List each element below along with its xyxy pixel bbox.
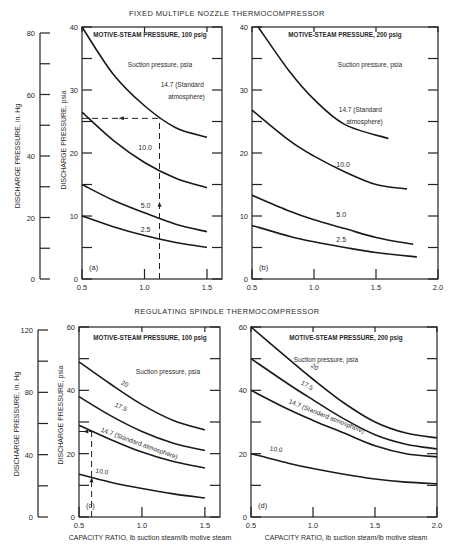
panel-label: (c) <box>86 501 95 510</box>
y-tick-label: 40 <box>70 23 78 32</box>
y-tick-label: 60 <box>67 323 75 332</box>
curve-suction-10.0 <box>251 454 437 484</box>
section-title-regulating-spindle: REGULATING SPINDLE THERMOCOMPRESSOR <box>135 307 320 316</box>
curve-label: 5.0 <box>141 202 151 209</box>
x-tick-label: 2.0 <box>432 521 442 530</box>
y-tick-label: 40 <box>67 386 75 395</box>
x-tick-label: 1.5 <box>370 521 380 530</box>
curve-label: atmosphere) <box>168 93 205 101</box>
x-tick-label: 2.0 <box>433 283 443 292</box>
hg-axis-label-bottom: DISCHARGE PRESSURE, in. Hg <box>13 372 21 476</box>
chart-panel-c: 02040600.51.01.5MOTIVE-STEAM PRESSURE, 1… <box>67 323 220 530</box>
hg-axis-top: 020406080 DISCHARGE PRESSURE, in. Hg <box>14 29 50 284</box>
curve-suction-10.0 <box>252 110 407 189</box>
hg-axis-label-top: DISCHARGE PRESSURE, in. Hg <box>14 104 22 208</box>
hg-tick-label: 120 <box>20 326 33 335</box>
x-tick-label: 1.0 <box>309 283 319 292</box>
curve-label: 17.5 <box>114 401 129 413</box>
y-tick-label: 30 <box>70 86 78 95</box>
x-tick-label: 1.5 <box>202 283 212 292</box>
curve-label: 2.5 <box>141 226 151 233</box>
panel-label: (d) <box>258 501 268 510</box>
hg-tick-label: 0 <box>29 513 33 522</box>
x-tick-label: 1.5 <box>200 521 210 530</box>
curve-suction-10.0 <box>79 474 205 498</box>
y-tick-label: 30 <box>240 86 248 95</box>
legend-caption: Suction pressure, psia <box>294 356 359 364</box>
curve-label: 10.0 <box>138 144 152 151</box>
curve-label: 14.7 (Standard <box>339 106 382 114</box>
y-tick-label: 20 <box>67 450 75 459</box>
panel-label: (b) <box>259 263 269 272</box>
x-axis-label-d: CAPACITY RATIO, lb suction steam/lb moti… <box>265 534 428 541</box>
section-title-fixed-nozzle: FIXED MULTIPLE NOZZLE THERMOCOMPRESSOR <box>129 9 325 18</box>
psia-axis-label-bottom: DISCHARGE PRESSURE, psia <box>57 365 65 464</box>
x-tick-label: 1.0 <box>139 283 149 292</box>
x-tick-label: 1.0 <box>137 521 147 530</box>
y-tick-label: 40 <box>240 23 248 32</box>
hg-tick-label: 80 <box>27 29 35 38</box>
y-tick-label: 10 <box>240 212 248 221</box>
panel-title: MOTIVE-STEAM PRESSURE, 200 psig <box>288 31 402 39</box>
chart-panel-b: 0102030400.51.01.52.0MOTIVE-STEAM PRESSU… <box>240 23 444 292</box>
curve-label: 10.0 <box>269 445 283 454</box>
hg-tick-label: 20 <box>27 214 35 223</box>
curve-label: 20 <box>310 362 320 372</box>
arrow-left-icon <box>119 116 124 120</box>
legend-caption: Suction pressure, psia <box>128 61 193 69</box>
legend-caption: Suction pressure, psia <box>136 368 201 376</box>
panel-title: MOTIVE-STEAM PRESSURE, 100 psig <box>93 31 207 39</box>
hg-tick-label: 80 <box>25 388 33 397</box>
thermocompressor-figure: FIXED MULTIPLE NOZZLE THERMOCOMPRESSOR R… <box>0 0 454 557</box>
hg-tick-label: 40 <box>27 152 35 161</box>
curve-label: 5.0 <box>336 211 346 218</box>
y-tick-label: 20 <box>70 149 78 158</box>
y-tick-label: 20 <box>240 149 248 158</box>
curve-label: 2.5 <box>336 236 346 243</box>
panel-label: (a) <box>89 263 99 272</box>
curve-label: atmosphere) <box>346 118 383 126</box>
chart-panel-d: 02040600.51.01.52.0MOTIVE-STEAM PRESSURE… <box>239 323 443 530</box>
hg-tick-label: 60 <box>27 91 35 100</box>
hg-tick-label: 0 <box>31 275 35 284</box>
curve-label: 17.5 <box>300 379 315 392</box>
curve-label: 10.0 <box>95 467 109 476</box>
curve-label: 10.0 <box>336 161 350 168</box>
x-axis-label-c: CAPACITY RATIO, lb suction steam/lb moti… <box>69 534 232 541</box>
x-tick-label: 1.0 <box>308 521 318 530</box>
curve-suction-5.0 <box>252 195 413 244</box>
panel-title: MOTIVE-STEAM PRESSURE, 200 psig <box>289 334 403 342</box>
arrow-up-icon <box>158 202 162 207</box>
legend-caption: Suction pressure, psia <box>338 61 403 69</box>
x-tick-label: 0.5 <box>247 283 257 292</box>
y-tick-label: 10 <box>70 212 78 221</box>
curve-label: 14.7 (Standard <box>161 81 204 89</box>
y-tick-label: 40 <box>239 386 247 395</box>
chart-panel-a: 0102030400.51.01.5MOTIVE-STEAM PRESSURE,… <box>70 23 222 292</box>
y-tick-label: 20 <box>239 450 247 459</box>
hg-axis-bottom: 04080120 DISCHARGE PRESSURE, in. Hg <box>13 326 48 522</box>
x-tick-label: 1.5 <box>371 283 381 292</box>
psia-axis-label-top: DISCHARGE PRESSURE, psia <box>60 90 68 189</box>
panel-title: MOTIVE-STEAM PRESSURE, 100 psig <box>93 334 207 342</box>
x-tick-label: 0.5 <box>77 283 87 292</box>
x-tick-label: 0.5 <box>74 521 84 530</box>
curve-label: 14.7 (Standard atmosphere) <box>287 397 365 435</box>
x-tick-label: 0.5 <box>246 521 256 530</box>
y-tick-label: 60 <box>239 323 247 332</box>
arrow-left-icon <box>83 430 88 434</box>
curve-label: 20 <box>120 379 130 389</box>
hg-tick-label: 40 <box>25 451 33 460</box>
plot-frame <box>79 327 220 517</box>
